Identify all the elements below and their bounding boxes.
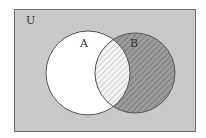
set-b-label: B	[130, 37, 138, 50]
set-a-label: A	[79, 37, 89, 50]
venn-diagram: U A B	[0, 0, 206, 138]
universe-label: U	[26, 14, 35, 27]
